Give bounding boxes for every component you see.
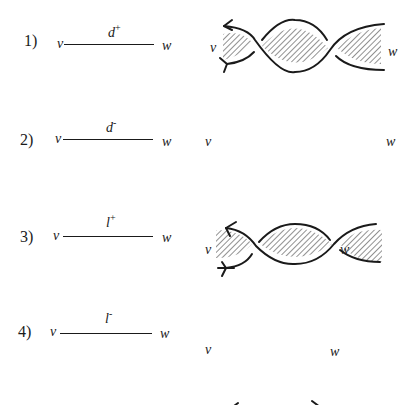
- row-l-plus: 3) v w l+ v w: [0, 200, 415, 295]
- edge-line: [64, 44, 154, 45]
- right-vertex-label: w: [162, 134, 171, 150]
- row-number: 4): [18, 323, 31, 341]
- left-vertex-label: v: [55, 131, 61, 147]
- tangle-left-label: v: [205, 242, 211, 258]
- row-l-minus: 4) v w l- v w: [0, 290, 415, 405]
- tangle-right-label: w: [386, 134, 395, 150]
- right-vertex-label: w: [162, 38, 171, 54]
- edge-sign: -: [113, 117, 116, 128]
- row-number: 1): [24, 32, 37, 50]
- edge-label: d+: [108, 22, 121, 41]
- right-vertex-label: w: [160, 326, 169, 342]
- tangle-left-label: v: [205, 134, 211, 150]
- edge-label: l+: [106, 212, 116, 231]
- tangle-right-label: w: [330, 344, 339, 360]
- edge-label: l-: [105, 308, 112, 327]
- edge-sign: -: [109, 308, 112, 319]
- left-vertex-label: v: [50, 324, 56, 340]
- right-vertex-label: w: [162, 230, 171, 246]
- edge-sign: +: [110, 212, 116, 223]
- edge-label: d-: [106, 117, 116, 136]
- row-d-minus: 2) v w d- v w: [0, 100, 415, 200]
- edge-line: [63, 236, 153, 237]
- tangle-right-label: w: [340, 242, 349, 258]
- edge-line: [63, 139, 153, 140]
- tangle-left-label: v: [205, 342, 211, 358]
- left-vertex-label: v: [53, 228, 59, 244]
- edge-line: [60, 333, 152, 334]
- row-d-plus: 1) v w d+ v w: [0, 0, 415, 100]
- row-number: 3): [20, 228, 33, 246]
- left-vertex-label: v: [57, 36, 63, 52]
- tangle-d-plus: [200, 0, 415, 100]
- edge-sign: +: [115, 22, 121, 33]
- row-number: 2): [20, 131, 33, 149]
